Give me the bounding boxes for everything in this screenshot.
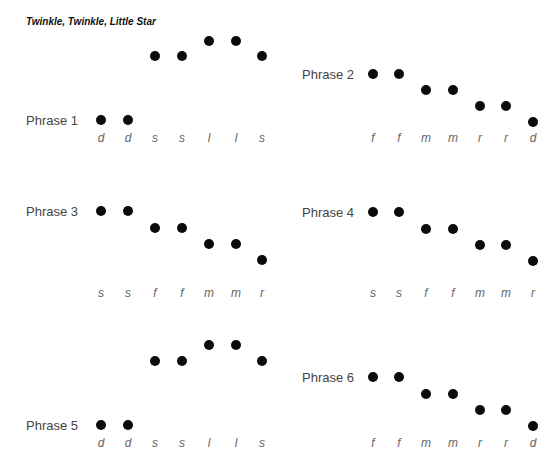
note-dot — [204, 36, 214, 46]
solfege-syllable: d — [118, 131, 138, 145]
solfege-syllable: s — [91, 286, 111, 300]
solfege-syllable: f — [363, 131, 383, 145]
phrase-label: Phrase 1 — [26, 113, 78, 128]
solfege-syllable: d — [91, 131, 111, 145]
note-dot — [394, 207, 404, 217]
note-dot — [368, 207, 378, 217]
solfege-syllable: f — [363, 436, 383, 450]
note-dot — [123, 206, 133, 216]
note-dot — [421, 224, 431, 234]
solfege-syllable: l — [199, 131, 219, 145]
note-dot — [177, 356, 187, 366]
solfege-syllable: s — [172, 131, 192, 145]
note-dot — [123, 115, 133, 125]
solfege-syllable: d — [118, 436, 138, 450]
phrase-label: Phrase 6 — [302, 370, 354, 385]
solfege-syllable: f — [145, 286, 165, 300]
solfege-syllable: s — [172, 436, 192, 450]
note-dot — [204, 340, 214, 350]
note-dot — [150, 51, 160, 61]
note-dot — [204, 239, 214, 249]
solfege-syllable: l — [226, 436, 246, 450]
note-dot — [257, 255, 267, 265]
solfege-syllable: r — [496, 436, 516, 450]
note-dot — [475, 405, 485, 415]
note-dot — [475, 101, 485, 111]
solfege-syllable: m — [470, 286, 490, 300]
solfege-syllable: s — [252, 131, 272, 145]
diagram-title: Twinkle, Twinkle, Little Star — [26, 16, 156, 27]
note-dot — [501, 101, 511, 111]
solfege-syllable: s — [145, 131, 165, 145]
solfege-syllable: d — [91, 436, 111, 450]
solfege-syllable: s — [389, 286, 409, 300]
solfege-syllable: m — [226, 286, 246, 300]
solfege-syllable: m — [443, 436, 463, 450]
note-dot — [528, 256, 538, 266]
note-dot — [177, 51, 187, 61]
solfege-syllable: m — [416, 436, 436, 450]
note-dot — [231, 36, 241, 46]
phrase-label: Phrase 3 — [26, 204, 78, 219]
solfege-syllable: d — [523, 131, 543, 145]
note-dot — [150, 356, 160, 366]
solfege-syllable: f — [443, 286, 463, 300]
phrase-label: Phrase 4 — [302, 205, 354, 220]
solfege-syllable: m — [443, 131, 463, 145]
solfege-syllable: l — [226, 131, 246, 145]
note-dot — [368, 372, 378, 382]
note-dot — [475, 240, 485, 250]
note-dot — [96, 115, 106, 125]
note-dot — [96, 206, 106, 216]
solfege-syllable: f — [389, 436, 409, 450]
note-dot — [177, 223, 187, 233]
solfege-syllable: s — [252, 436, 272, 450]
phrase-label: Phrase 5 — [26, 418, 78, 433]
note-dot — [448, 85, 458, 95]
solfege-syllable: m — [416, 131, 436, 145]
note-dot — [231, 340, 241, 350]
note-dot — [448, 224, 458, 234]
solfege-syllable: r — [252, 286, 272, 300]
solfege-syllable: r — [470, 131, 490, 145]
solfege-syllable: s — [363, 286, 383, 300]
note-dot — [421, 85, 431, 95]
solfege-syllable: s — [118, 286, 138, 300]
note-dot — [257, 356, 267, 366]
note-dot — [96, 420, 106, 430]
solfege-syllable: r — [496, 131, 516, 145]
note-dot — [394, 69, 404, 79]
note-dot — [150, 223, 160, 233]
solfege-syllable: f — [416, 286, 436, 300]
phrase-label: Phrase 2 — [302, 67, 354, 82]
note-dot — [448, 389, 458, 399]
solfege-syllable: f — [172, 286, 192, 300]
note-dot — [501, 405, 511, 415]
solfege-syllable: m — [199, 286, 219, 300]
note-dot — [528, 421, 538, 431]
solfege-syllable: d — [523, 436, 543, 450]
solfege-syllable: l — [199, 436, 219, 450]
note-dot — [421, 389, 431, 399]
note-dot — [123, 420, 133, 430]
note-dot — [257, 51, 267, 61]
solfege-syllable: f — [389, 131, 409, 145]
solfege-syllable: s — [145, 436, 165, 450]
solfege-syllable: m — [496, 286, 516, 300]
note-dot — [231, 239, 241, 249]
solfege-syllable: r — [523, 286, 543, 300]
solfege-syllable: r — [470, 436, 490, 450]
note-dot — [368, 69, 378, 79]
note-dot — [394, 372, 404, 382]
note-dot — [501, 240, 511, 250]
note-dot — [528, 117, 538, 127]
